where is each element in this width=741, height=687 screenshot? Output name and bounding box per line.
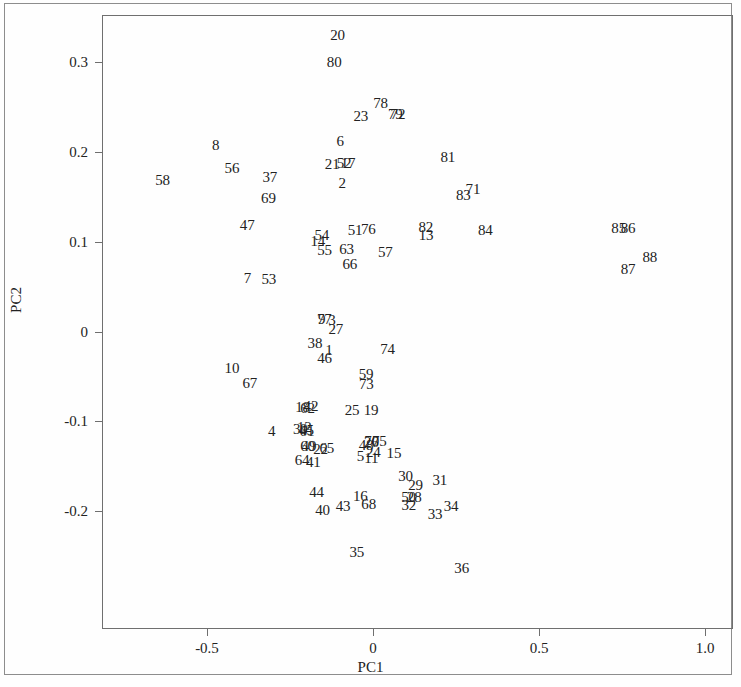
data-point-label: 4 <box>268 424 275 439</box>
y-tick-label: 0.3 <box>28 54 88 71</box>
data-point-label: 56 <box>225 161 240 176</box>
data-point-label: 36 <box>454 561 469 576</box>
data-point-label: 62 <box>300 400 315 415</box>
data-point-label: 84 <box>478 223 493 238</box>
data-point-label: 53 <box>261 272 276 287</box>
pca-scatter-figure: 1234567891011121314151617181920212223242… <box>0 0 741 687</box>
data-point-label: 35 <box>349 545 364 560</box>
data-point-label: 67 <box>243 375 258 390</box>
data-point-label: 83 <box>456 188 471 203</box>
x-tick-mark <box>705 629 706 636</box>
data-point-label: 30 <box>398 468 413 483</box>
data-point-label: 66 <box>342 257 357 272</box>
y-tick-mark <box>95 421 102 422</box>
data-point-label: 55 <box>317 242 332 257</box>
y-tick-mark <box>95 242 102 243</box>
data-point-label: 47 <box>240 217 255 232</box>
x-tick-label: 0 <box>369 640 377 657</box>
data-point-label: 86 <box>621 221 636 236</box>
data-point-label: 43 <box>336 498 351 513</box>
data-point-label: 25 <box>345 402 360 417</box>
data-point-label: 73 <box>359 377 374 392</box>
x-tick-label: 0.5 <box>530 640 549 657</box>
x-tick-label: -0.5 <box>195 640 219 657</box>
y-tick-label: -0.1 <box>28 413 88 430</box>
data-point-label: 80 <box>327 55 342 70</box>
data-point-label: 68 <box>361 496 376 511</box>
data-point-label: 50 <box>401 489 416 504</box>
data-point-label: 61 <box>300 424 315 439</box>
data-point-label: 52 <box>337 155 352 170</box>
y-tick-label: 0 <box>28 323 88 340</box>
data-point-label: 58 <box>155 172 170 187</box>
data-point-label: 31 <box>432 473 447 488</box>
x-tick-mark <box>373 629 374 636</box>
data-point-label: 33 <box>428 506 443 521</box>
data-point-label: 77 <box>317 311 332 326</box>
plot-area: 1234567891011121314151617181920212223242… <box>102 15 733 629</box>
y-tick-mark <box>95 332 102 333</box>
data-point-label: 88 <box>643 250 658 265</box>
data-point-label: 40 <box>315 503 330 518</box>
data-point-label: 46 <box>317 350 332 365</box>
data-point-label: 6 <box>336 134 343 149</box>
x-axis-title: PC1 <box>0 659 741 676</box>
data-point-label: 64 <box>295 452 310 467</box>
x-tick-mark <box>539 629 540 636</box>
data-point-label: 75 <box>372 433 387 448</box>
x-tick-label: 1.0 <box>696 640 715 657</box>
data-point-label: 57 <box>378 244 393 259</box>
data-point-label: 34 <box>444 499 459 514</box>
data-point-label: 8 <box>212 137 219 152</box>
y-tick-mark <box>95 62 102 63</box>
y-tick-label: 0.2 <box>28 144 88 161</box>
data-point-label: 7 <box>244 270 251 285</box>
data-point-label: 2 <box>338 175 345 190</box>
data-point-label: 37 <box>262 170 277 185</box>
data-point-label: 74 <box>380 342 395 357</box>
data-point-label: 69 <box>261 190 276 205</box>
data-point-label: 65 <box>320 441 335 456</box>
data-point-label: 81 <box>440 150 455 165</box>
y-axis-title: PC2 <box>8 287 25 313</box>
data-point-label: 44 <box>309 485 324 500</box>
y-tick-label: 0.1 <box>28 233 88 250</box>
data-point-label: 19 <box>364 402 379 417</box>
data-point-label: 82 <box>418 219 433 234</box>
y-tick-label: -0.2 <box>28 502 88 519</box>
data-point-label: 79 <box>388 106 403 121</box>
y-tick-mark <box>95 511 102 512</box>
y-tick-mark <box>95 152 102 153</box>
data-point-label: 54 <box>315 227 330 242</box>
data-point-label: 20 <box>330 27 345 42</box>
data-point-label: 87 <box>621 261 636 276</box>
data-point-label: 23 <box>353 109 368 124</box>
data-point-label: 15 <box>387 446 402 461</box>
x-tick-mark <box>207 629 208 636</box>
data-point-label: 76 <box>361 222 376 237</box>
data-point-label: 63 <box>339 241 354 256</box>
data-point-label: 10 <box>225 361 240 376</box>
data-point-label: 78 <box>373 95 388 110</box>
